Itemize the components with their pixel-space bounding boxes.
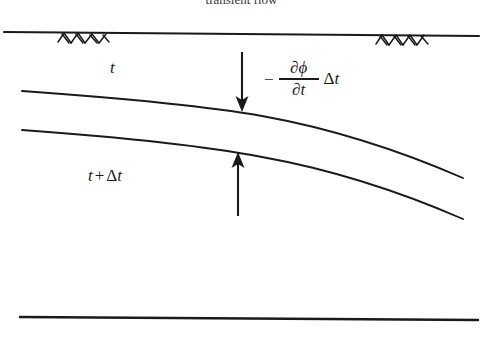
expression-drawdown-rate: − ∂ϕ ∂t Δt	[264, 59, 339, 99]
minus-sign: −	[264, 70, 274, 90]
transient-flow-figure: transient flow	[0, 0, 483, 344]
figure-canvas	[0, 0, 483, 344]
fraction-denominator: ∂t	[289, 81, 308, 99]
label-time-t: t	[110, 58, 115, 78]
label-t-variable: t	[117, 166, 122, 185]
arrow-up-drawdown	[232, 152, 245, 216]
label-plus-operator: +	[93, 166, 107, 185]
fraction-numerator: ∂ϕ	[287, 59, 310, 77]
bedrock-base-line	[20, 317, 478, 320]
hatch-marks-left	[58, 33, 109, 43]
t-variable: t	[335, 69, 340, 88]
arrow-down-drawdown	[236, 52, 249, 112]
delta-symbol: Δ	[324, 69, 335, 88]
fraction-partial-phi-over-partial-t: ∂ϕ ∂t	[279, 59, 319, 99]
label-delta-symbol: Δ	[106, 166, 117, 185]
label-time-t-text: t	[110, 58, 115, 77]
label-time-t-plus-delta-t: t+Δt	[88, 166, 122, 186]
delta-t-factor: Δt	[324, 69, 340, 89]
